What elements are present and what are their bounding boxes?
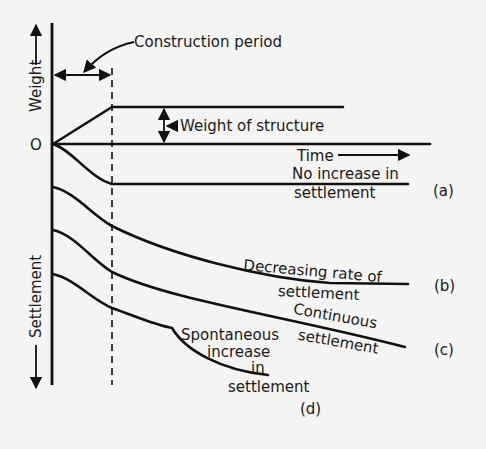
settlement-axis-label: Settlement [27,255,45,388]
time-label: Time [296,147,334,165]
construction-period-label: Construction period [134,33,282,51]
weight-axis-label: Weight [27,25,45,112]
curve-c-tag: (c) [434,341,454,359]
curve-b-tag: (b) [434,277,455,295]
origin-label: O [30,136,42,154]
construction-leader-arrow-icon [84,42,134,72]
settlement-time-diagram: Weight O Settlement Construction period … [0,0,486,449]
curve-a-label-2: settlement [294,184,376,202]
svg-text:Weight: Weight [27,60,45,112]
weight-of-structure-label: Weight of structure [180,117,324,135]
curve-d-label-4: settlement [228,378,310,396]
curve-d-tag: (d) [300,400,321,418]
svg-text:Settlement: Settlement [27,255,45,338]
curve-a-label-1: No increase in [292,165,399,183]
curve-d-label-3: in [251,359,265,377]
curve-d-label-1: Spontaneous [181,326,279,344]
curve-a-tag: (a) [433,182,454,200]
curve-b-label-2: settlement [278,282,360,304]
